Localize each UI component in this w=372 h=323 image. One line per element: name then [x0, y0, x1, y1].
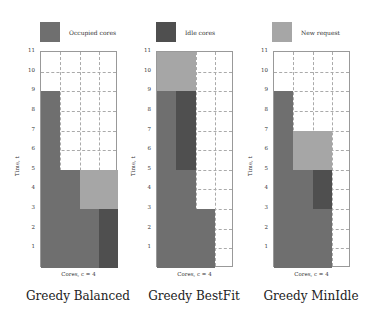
- y-axis-label: Time, t: [130, 156, 136, 176]
- y-tick-label: 6: [23, 145, 35, 151]
- block-new-request: [176, 52, 195, 91]
- grid-line-horizontal: [274, 72, 349, 73]
- swatch-idle: [156, 22, 176, 42]
- block-idle: [313, 170, 332, 209]
- swatch-new-request: [272, 22, 292, 42]
- block-new-request: [293, 131, 312, 170]
- block-new-request: [157, 52, 176, 91]
- chart-title-greedy-minidle: Greedy MinIdle: [251, 289, 371, 303]
- chart-title-greedy-bestfit: Greedy BestFit: [134, 289, 254, 303]
- block-new-request: [80, 170, 99, 209]
- y-tick-label: 10: [23, 67, 35, 73]
- block-new-request: [99, 170, 118, 209]
- y-tick-label: 4: [23, 184, 35, 190]
- y-tick-label: 1: [256, 243, 268, 249]
- y-tick-label: 8: [139, 106, 151, 112]
- block-new-request: [313, 131, 332, 170]
- chart-greedy-bestfit: [156, 51, 233, 267]
- legend-idle: Idle cores: [156, 22, 215, 42]
- block-occupied: [196, 209, 215, 268]
- x-axis-label: Cores, c = 4: [273, 271, 350, 277]
- y-tick-label: 10: [139, 67, 151, 73]
- y-tick-label: 5: [23, 165, 35, 171]
- legend-label-new-request: New request: [301, 29, 340, 36]
- legend-occupied: Occupied cores: [40, 22, 116, 42]
- y-tick-label: 2: [23, 224, 35, 230]
- y-tick-label: 5: [139, 165, 151, 171]
- x-axis-label: Cores, c = 4: [156, 271, 233, 277]
- block-occupied: [274, 91, 293, 268]
- block-idle: [99, 209, 118, 268]
- y-tick-label: 8: [256, 106, 268, 112]
- y-tick-label: 3: [256, 204, 268, 210]
- y-tick-label: 2: [139, 224, 151, 230]
- legend-label-occupied: Occupied cores: [69, 29, 116, 36]
- chart-greedy-balanced: [40, 51, 117, 267]
- y-tick-label: 3: [139, 204, 151, 210]
- y-axis-label: Time, t: [14, 156, 20, 176]
- chart-greedy-minidle: [273, 51, 350, 267]
- y-tick-label: 7: [256, 126, 268, 132]
- block-occupied: [60, 170, 79, 268]
- chart-title-greedy-balanced: Greedy Balanced: [18, 289, 138, 303]
- legend-new-request: New request: [272, 22, 340, 42]
- y-tick-label: 9: [23, 86, 35, 92]
- y-tick-label: 8: [23, 106, 35, 112]
- y-tick-label: 4: [139, 184, 151, 190]
- block-occupied: [176, 170, 195, 268]
- grid-line-vertical: [215, 52, 216, 266]
- block-occupied: [313, 209, 332, 268]
- y-tick-label: 5: [256, 165, 268, 171]
- block-idle: [176, 91, 195, 170]
- legend-label-idle: Idle cores: [185, 29, 215, 36]
- y-tick-label: 1: [139, 243, 151, 249]
- y-tick-label: 11: [23, 47, 35, 53]
- y-tick-label: 1: [23, 243, 35, 249]
- y-tick-label: 7: [139, 126, 151, 132]
- y-tick-label: 11: [139, 47, 151, 53]
- y-tick-label: 4: [256, 184, 268, 190]
- y-tick-label: 9: [256, 86, 268, 92]
- x-axis-label: Cores, c = 4: [40, 271, 117, 277]
- block-occupied: [293, 170, 312, 268]
- y-tick-label: 3: [23, 204, 35, 210]
- y-tick-label: 2: [256, 224, 268, 230]
- y-tick-label: 7: [23, 126, 35, 132]
- y-tick-label: 10: [256, 67, 268, 73]
- grid-line-vertical: [332, 52, 333, 266]
- y-tick-label: 6: [256, 145, 268, 151]
- block-occupied: [157, 91, 176, 268]
- y-tick-label: 9: [139, 86, 151, 92]
- block-occupied: [80, 209, 99, 268]
- block-occupied: [41, 91, 60, 268]
- y-axis-label: Time, t: [247, 156, 253, 176]
- swatch-occupied: [40, 22, 60, 42]
- y-tick-label: 11: [256, 47, 268, 53]
- grid-line-horizontal: [41, 72, 116, 73]
- y-tick-label: 6: [139, 145, 151, 151]
